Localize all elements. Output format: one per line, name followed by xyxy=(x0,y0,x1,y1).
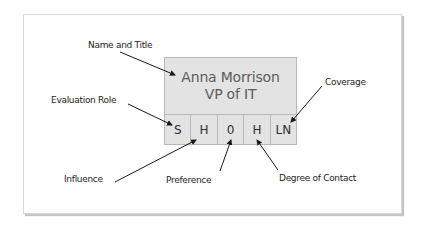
cell-degree-of-contact: H xyxy=(244,115,270,144)
contact-card: Anna Morrison VP of IT S H 0 H LN xyxy=(164,57,297,145)
cell-coverage: LN xyxy=(271,115,296,144)
label-coverage: Coverage xyxy=(325,77,366,87)
contact-title: VP of IT xyxy=(205,86,257,103)
cell-evaluation-role: S xyxy=(165,115,191,144)
cell-preference: 0 xyxy=(218,115,244,144)
label-influence: Influence xyxy=(64,174,103,184)
label-evaluation-role: Evaluation Role xyxy=(51,95,116,105)
contact-name: Anna Morrison xyxy=(181,69,279,86)
label-degree-of-contact: Degree of Contact xyxy=(279,173,356,183)
name-title-block: Anna Morrison VP of IT xyxy=(165,58,296,115)
cell-influence: H xyxy=(191,115,217,144)
label-name-and-title: Name and Title xyxy=(88,40,152,50)
label-preference: Preference xyxy=(166,175,211,185)
attribute-row: S H 0 H LN xyxy=(165,115,296,144)
